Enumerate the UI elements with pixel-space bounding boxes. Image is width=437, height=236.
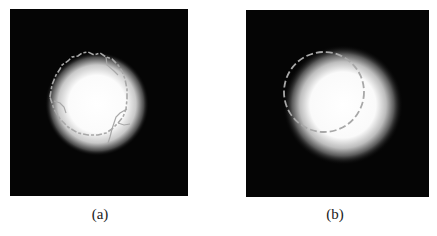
panel-b-caption: (b): [315, 206, 355, 223]
panel-a-image: [10, 9, 188, 196]
bright-blob: [283, 45, 403, 165]
panel-a-caption: (a): [80, 206, 120, 223]
panel-b-graphic: [246, 10, 429, 197]
panel-b-image: [246, 10, 429, 197]
panel-a-graphic: [10, 9, 188, 196]
